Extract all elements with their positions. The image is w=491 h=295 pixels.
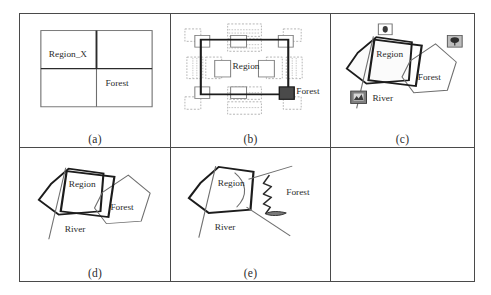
panel-e-label: (e) bbox=[171, 267, 330, 279]
panel-b-canvas: Region Forest bbox=[171, 14, 330, 125]
forest-guide-bottom bbox=[247, 207, 291, 236]
ghost-box-top-outer bbox=[228, 24, 262, 36]
forest-label: Forest bbox=[296, 87, 320, 96]
stamp-icon[interactable] bbox=[378, 24, 392, 35]
handle-top-right[interactable] bbox=[278, 36, 293, 48]
forest-blob[interactable] bbox=[265, 212, 286, 216]
panel-d-label: (d) bbox=[20, 267, 170, 279]
handle-mid-top[interactable] bbox=[231, 36, 247, 48]
forest-label: Forest bbox=[105, 79, 129, 88]
handle-bottom-left[interactable] bbox=[195, 87, 210, 99]
forest-label: Forest bbox=[286, 188, 310, 197]
panel-c-drawing: Region Forest River bbox=[331, 14, 474, 125]
region-pentagon[interactable] bbox=[189, 167, 254, 213]
handle-mid-left[interactable] bbox=[215, 60, 231, 77]
panel-e-drawing: Region Forest River bbox=[171, 148, 330, 259]
panel-f-empty bbox=[331, 148, 474, 281]
panel-a-label: (a) bbox=[20, 133, 170, 145]
panel-f-canvas bbox=[331, 148, 474, 259]
river-label: River bbox=[215, 223, 236, 232]
forest-squiggle[interactable] bbox=[263, 175, 271, 214]
region-label: Region bbox=[69, 180, 97, 189]
region-x-label: Region_X bbox=[49, 50, 88, 59]
panel-b: Region Forest (b) bbox=[171, 14, 331, 148]
forest-guide-top bbox=[249, 166, 293, 179]
ghost-box-bottom-outer bbox=[228, 102, 262, 114]
panel-c: Region Forest River (c) bbox=[331, 14, 474, 148]
panel-e: Region Forest River (e) bbox=[171, 148, 331, 281]
river-label: River bbox=[372, 94, 393, 103]
figure-frame: Region_X Forest (a) bbox=[19, 13, 475, 282]
panel-a-canvas: Region_X Forest bbox=[20, 14, 170, 125]
tree-icon[interactable] bbox=[447, 36, 462, 48]
forest-label: Forest bbox=[110, 202, 134, 211]
river-icon[interactable] bbox=[351, 91, 367, 103]
handle-mid-right[interactable] bbox=[258, 60, 274, 77]
panel-e-canvas: Region Forest River bbox=[171, 148, 330, 259]
panel-c-label: (c) bbox=[331, 133, 474, 145]
forest-label: Forest bbox=[418, 73, 442, 82]
panel-d: Region Forest River (d) bbox=[20, 148, 171, 281]
panel-d-canvas: Region Forest River bbox=[20, 148, 170, 259]
active-resize-handle[interactable] bbox=[279, 87, 294, 99]
panel-d-drawing: Region Forest River bbox=[20, 148, 170, 259]
handle-top-left[interactable] bbox=[195, 36, 210, 48]
region-label: Region bbox=[233, 62, 261, 71]
panel-b-drawing: Region Forest bbox=[171, 14, 330, 125]
handle-mid-bottom[interactable] bbox=[231, 87, 247, 99]
panel-c-canvas: Region Forest River bbox=[331, 14, 474, 125]
river-label: River bbox=[65, 225, 86, 234]
panel-a-drawing: Region_X Forest bbox=[20, 14, 170, 125]
panel-b-label: (b) bbox=[171, 133, 330, 145]
region-label: Region bbox=[376, 50, 404, 59]
region-pentagon[interactable] bbox=[39, 169, 104, 215]
region-label: Region bbox=[218, 179, 246, 188]
panel-a: Region_X Forest (a) bbox=[20, 14, 171, 148]
panel-grid: Region_X Forest (a) bbox=[20, 14, 474, 281]
